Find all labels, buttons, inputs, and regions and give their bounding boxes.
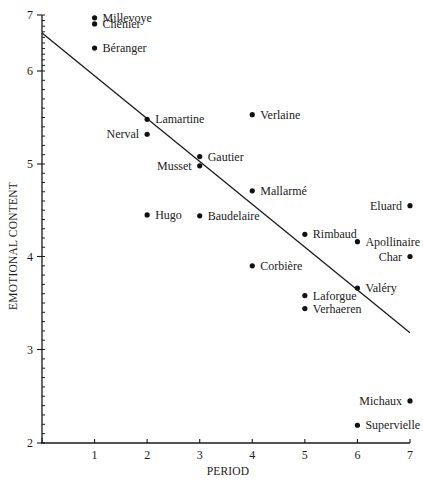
x-tick-label: 6: [354, 448, 360, 462]
point-label: Verlaine: [260, 108, 300, 122]
point-label: Nerval: [106, 127, 139, 141]
point-marker-icon: [197, 163, 202, 168]
data-point-corbiere: Corbière: [250, 259, 303, 273]
data-point-rimbaud: Rimbaud: [302, 227, 357, 241]
data-point-beranger: Béranger: [92, 41, 147, 55]
point-marker-icon: [250, 188, 255, 193]
point-marker-icon: [250, 263, 255, 268]
point-marker-icon: [407, 398, 412, 403]
y-tick-label: 6: [27, 64, 33, 78]
point-label: Mallarmé: [260, 184, 307, 198]
point-marker-icon: [355, 423, 360, 428]
point-marker-icon: [302, 293, 307, 298]
data-point-nerval: Nerval: [106, 127, 149, 141]
point-label: Supervielle: [365, 418, 420, 432]
point-marker-icon: [355, 239, 360, 244]
point-label: Corbière: [260, 259, 302, 273]
point-marker-icon: [145, 132, 150, 137]
point-label: Chénier: [103, 17, 141, 31]
data-point-baudelaire: Baudelaire: [197, 209, 260, 223]
point-marker-icon: [250, 112, 255, 117]
data-point-verlaine: Verlaine: [250, 108, 301, 122]
x-axis-title: PERIOD: [207, 465, 250, 477]
point-marker-icon: [92, 45, 97, 50]
data-points: MillevoyeChénierBérangerLamartineNervalH…: [92, 11, 420, 432]
point-label: Valéry: [365, 281, 396, 295]
x-tick-label: 5: [302, 448, 308, 462]
point-marker-icon: [145, 212, 150, 217]
x-axis: 1234567: [41, 438, 413, 462]
data-point-verhaeren: Verhaeren: [302, 302, 361, 316]
point-marker-icon: [355, 286, 360, 291]
data-point-musset: Musset: [157, 159, 202, 173]
data-point-apollinaire: Apollinaire: [355, 235, 420, 249]
x-tick-label: 2: [144, 448, 150, 462]
y-tick-label: 7: [27, 8, 33, 22]
data-point-mallarme: Mallarmé: [250, 184, 307, 198]
point-marker-icon: [407, 203, 412, 208]
point-label: Rimbaud: [313, 227, 357, 241]
x-tick-label: 1: [92, 448, 98, 462]
point-label: Laforgue: [313, 289, 357, 303]
point-label: Apollinaire: [365, 235, 420, 249]
point-marker-icon: [197, 154, 202, 159]
point-label: Gautier: [208, 150, 244, 164]
data-point-gautier: Gautier: [197, 150, 244, 164]
y-tick-label: 4: [27, 250, 33, 264]
data-point-char: Char: [379, 250, 413, 264]
data-point-michaux: Michaux: [359, 394, 412, 408]
point-marker-icon: [407, 254, 412, 259]
scatter-chart: 234567 1234567 MillevoyeChénierBérangerL…: [0, 0, 423, 482]
point-label: Hugo: [155, 208, 182, 222]
x-tick-label: 4: [249, 448, 255, 462]
data-point-supervielle: Supervielle: [355, 418, 420, 432]
data-point-hugo: Hugo: [145, 208, 182, 222]
data-point-laforgue: Laforgue: [302, 289, 356, 303]
point-label: Michaux: [359, 394, 402, 408]
y-tick-label: 2: [27, 436, 33, 450]
data-point-chenier: Chénier: [92, 17, 141, 31]
y-axis: 234567: [27, 8, 45, 450]
y-tick-label: 3: [27, 343, 33, 357]
point-label: Musset: [157, 159, 192, 173]
point-marker-icon: [302, 232, 307, 237]
y-axis-title: EMOTIONAL CONTENT: [7, 182, 19, 310]
point-marker-icon: [302, 306, 307, 311]
x-tick-label: 3: [197, 448, 203, 462]
data-point-eluard: Eluard: [370, 199, 413, 213]
y-tick-label: 5: [27, 157, 33, 171]
point-label: Verhaeren: [313, 302, 362, 316]
point-marker-icon: [92, 21, 97, 26]
point-label: Béranger: [103, 41, 147, 55]
point-marker-icon: [145, 117, 150, 122]
point-label: Char: [379, 250, 402, 264]
point-label: Lamartine: [155, 112, 204, 126]
point-marker-icon: [197, 213, 202, 218]
point-label: Baudelaire: [208, 209, 260, 223]
point-label: Eluard: [370, 199, 402, 213]
point-marker-icon: [92, 15, 97, 20]
x-tick-label: 7: [407, 448, 413, 462]
